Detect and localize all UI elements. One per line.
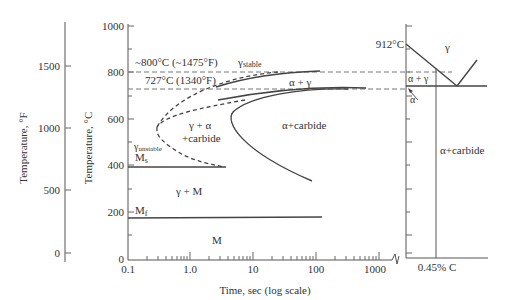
time-axis: 0.1 1.0 10 100 1000 Time, sec (log scale… xyxy=(121,252,399,297)
f-tick-0: 0 xyxy=(55,247,61,259)
f-axis-title: Temperature, °F xyxy=(17,112,29,183)
c-tick-1000: 1000 xyxy=(102,20,125,32)
label-plus-carbide: +carbide xyxy=(182,132,221,144)
arrow-icon xyxy=(408,88,413,93)
label-800C: ~800°C (~1475°F) xyxy=(135,56,218,69)
label-gamma-m: γ + M xyxy=(175,185,203,197)
label-912C: 912°C xyxy=(376,38,404,50)
f-tick-500: 500 xyxy=(44,184,61,196)
label-ms: Ms xyxy=(135,151,148,165)
x-tick-100: 100 xyxy=(308,263,325,275)
f-tick-1000: 1000 xyxy=(38,122,61,134)
label-pd-alpha-gamma: α + γ xyxy=(408,73,429,84)
x-tick-0.1: 0.1 xyxy=(121,263,135,275)
x-tick-10: 10 xyxy=(248,263,260,275)
c-tick-800: 800 xyxy=(108,66,125,78)
label-alpha-gamma: α + γ xyxy=(289,76,311,88)
label-alpha-carbide: α+carbide xyxy=(282,119,326,131)
c-tick-400: 400 xyxy=(108,159,125,171)
x-tick-1000: 1000 xyxy=(364,263,387,275)
axis-break-icon xyxy=(392,254,399,264)
label-gamma-stable: γstable xyxy=(237,56,262,69)
phase-diagram: 912°C γ α + γ α α+carbide 0.45% C xyxy=(376,24,488,273)
c-tick-200: 200 xyxy=(108,206,125,218)
label-pd-composition: 0.45% C xyxy=(418,261,457,273)
label-pd-alpha-carbide: α+carbide xyxy=(440,144,484,156)
label-mf: Mf xyxy=(135,204,148,218)
label-m: M xyxy=(212,234,222,246)
curve-finish xyxy=(231,89,348,181)
ttt-diagram: 1500 1000 500 0 Temperature, °F Temperat… xyxy=(0,0,510,300)
mf-line xyxy=(128,217,322,218)
acm-line xyxy=(457,60,477,86)
label-pd-gamma: γ xyxy=(444,41,450,53)
celsius-axis: Temperature, °C 1000 800 600 400 200 0 xyxy=(82,20,134,265)
x-axis-title: Time, sec (log scale) xyxy=(219,284,311,297)
label-pd-alpha: α xyxy=(410,94,416,105)
x-tick-1: 1.0 xyxy=(183,263,197,275)
fahrenheit-axis: 1500 1000 500 0 Temperature, °F xyxy=(17,22,71,262)
c-tick-600: 600 xyxy=(108,113,125,125)
label-gamma-alpha: γ + α xyxy=(188,119,212,131)
f-tick-1500: 1500 xyxy=(38,60,61,72)
c-axis-title: Temperature, °C xyxy=(82,112,94,185)
label-727C: 727°C (1340°F) xyxy=(145,74,216,87)
